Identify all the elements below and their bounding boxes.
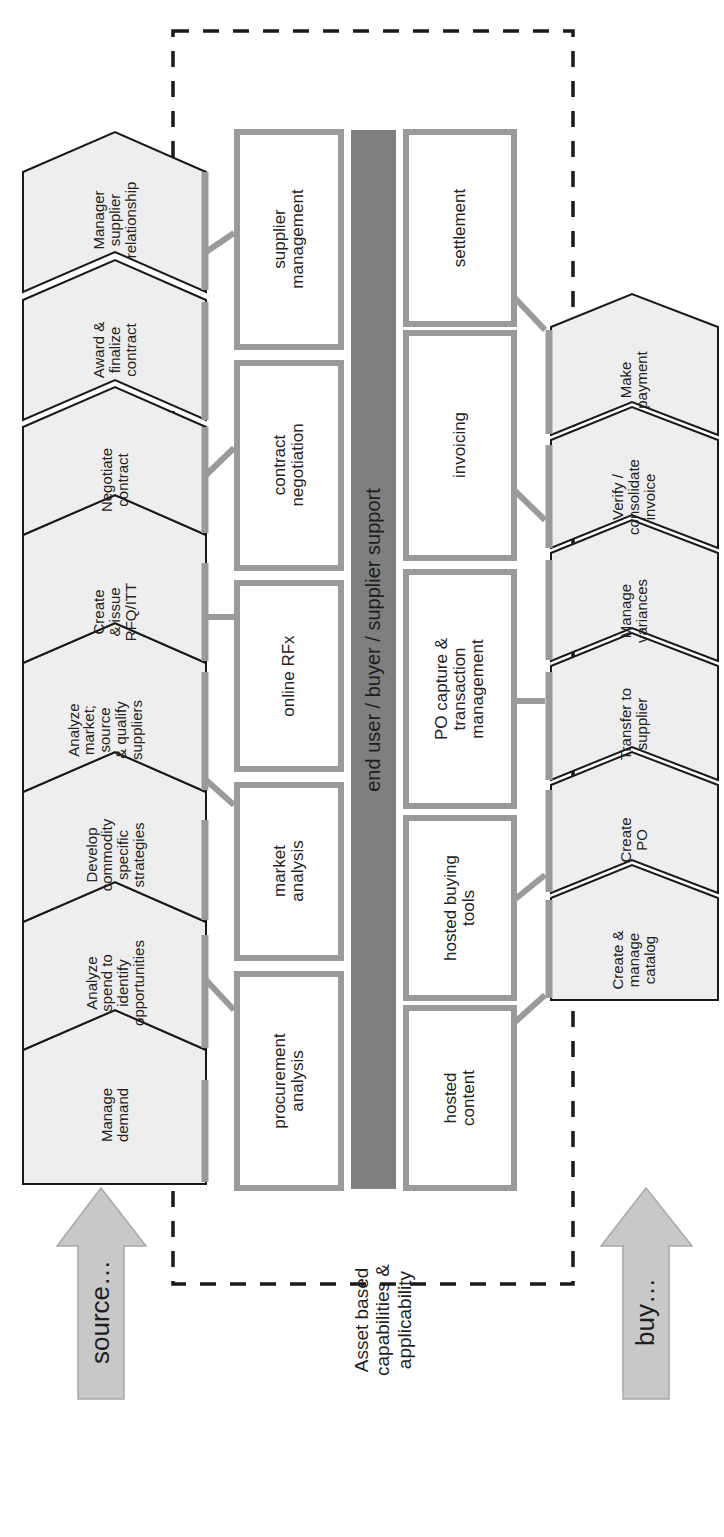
capability-market-analysis: market analysis bbox=[244, 801, 334, 941]
buy-connectors bbox=[514, 297, 545, 1023]
capability-invoicing: invoicing bbox=[415, 360, 505, 530]
buy-step-transfer-to-supplier: Transfer to supplier bbox=[594, 674, 674, 774]
buy-step-create-po: Create PO bbox=[594, 790, 674, 890]
capability-contract-negotiation: contract negotiation bbox=[244, 380, 334, 550]
source-step-negotiate-contract: Negotiate contract bbox=[75, 420, 155, 540]
capability-procurement-analysis: procurement analysis bbox=[244, 996, 334, 1166]
capability-hosted-content: hosted content bbox=[415, 1023, 505, 1173]
source-step-award-contract: Award & finalize contract bbox=[75, 290, 155, 410]
buy-step-make-payment: Make payment bbox=[594, 330, 674, 430]
capability-settlement: settlement bbox=[415, 143, 505, 313]
asset-capabilities-label: Asset based capabilities & applicability bbox=[343, 1235, 423, 1405]
support-bar-label: end user / buyer / supplier support bbox=[356, 390, 390, 890]
source-step-manage-demand: Manage demand bbox=[75, 1055, 155, 1175]
source-step-create-rfq: Create & issue RFQ/ITT bbox=[75, 552, 155, 672]
buy-arrow-label: buy… bbox=[626, 1237, 666, 1387]
capability-po-capture: PO capture & transaction management bbox=[405, 594, 515, 784]
buy-step-manage-variances: Manage variances bbox=[594, 561, 674, 661]
source-connectors bbox=[206, 233, 234, 1010]
capability-online-rfx: online RFx bbox=[244, 601, 334, 751]
buy-step-verify-invoice: Verify / consolidate invoice bbox=[594, 447, 674, 547]
source-arrow-label: source… bbox=[81, 1237, 121, 1387]
source-step-develop-strategies: Develop commodity specific strategies bbox=[75, 795, 155, 915]
source-step-manage-supplier-relationship: Manager supplier relationship bbox=[75, 160, 155, 280]
capability-hosted-buying-tools: hosted buying tools bbox=[415, 833, 505, 983]
capability-supplier-management: supplier management bbox=[244, 154, 334, 324]
source-step-analyze-spend: Analyze spend to identify opportunities bbox=[75, 923, 155, 1043]
source-step-analyze-market: Analyze market; source & qualify supplie… bbox=[55, 670, 155, 790]
buy-step-create-manage-catalog: Create & manage catalog bbox=[594, 910, 674, 1010]
